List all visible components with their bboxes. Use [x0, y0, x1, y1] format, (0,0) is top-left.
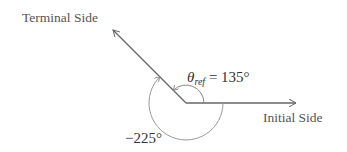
reference-angle-label: θref = 135° [187, 69, 250, 87]
negative-angle-label: −225° [125, 130, 162, 147]
theta-subscript: ref [194, 76, 205, 87]
initial-side-label: Initial Side [263, 110, 323, 126]
theta-value: = 135° [209, 69, 250, 85]
terminal-side-label: Terminal Side [22, 10, 98, 26]
terminal-side-ray [113, 30, 186, 103]
